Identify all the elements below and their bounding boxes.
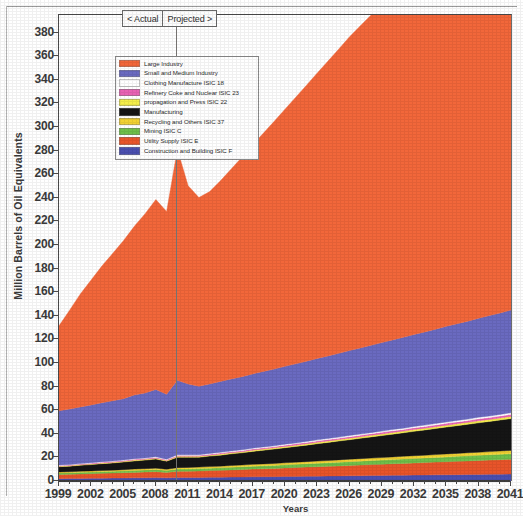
- x-tick-mark-minor: [488, 481, 489, 484]
- x-tick-mark-minor: [198, 481, 199, 484]
- y-tick-mark: [52, 338, 58, 339]
- x-tick-mark: [510, 481, 511, 486]
- x-axis-title-text: Years: [283, 503, 308, 514]
- legend-color-swatch: [119, 89, 140, 97]
- x-axis-title: Years: [0, 503, 523, 514]
- y-tick-mark: [52, 32, 58, 33]
- x-tick-mark: [349, 481, 350, 486]
- legend-color-swatch: [119, 99, 140, 107]
- x-tick-mark: [284, 481, 285, 486]
- x-tick-label: 2026: [335, 487, 362, 501]
- x-tick-mark-minor: [133, 481, 134, 484]
- x-tick-mark-minor: [176, 481, 177, 484]
- y-tick-mark: [52, 409, 58, 410]
- x-tick-label: 2032: [400, 487, 427, 501]
- x-tick-label: 1999: [45, 487, 72, 501]
- legend-item-label: Large Industry: [144, 60, 183, 68]
- legend-color-swatch: [119, 60, 140, 68]
- x-tick-label: 2023: [303, 487, 330, 501]
- x-tick-mark-minor: [359, 481, 360, 484]
- x-tick-mark-minor: [101, 481, 102, 484]
- x-tick-mark-minor: [230, 481, 231, 484]
- x-tick-mark-minor: [112, 481, 113, 484]
- x-tick-label: 2011: [174, 487, 200, 501]
- x-tick-mark-minor: [166, 481, 167, 484]
- x-tick-label: 2038: [464, 487, 491, 501]
- x-tick-mark-minor: [338, 481, 339, 484]
- legend-item-label: Small and Medium Industry: [144, 69, 218, 77]
- legend-item: Small and Medium Industry: [119, 69, 255, 78]
- actual-projected-annotation: < Actual Projected >: [122, 10, 217, 27]
- x-tick-mark: [155, 481, 156, 486]
- scan-edge-top: [6, 6, 517, 7]
- x-axis-tick-labels: 1999200220052008201120142017202020232026…: [0, 487, 523, 503]
- y-tick-mark: [52, 220, 58, 221]
- legend-item-label: Recycling and Others ISIC 37: [144, 118, 224, 126]
- x-tick-mark: [90, 481, 91, 486]
- x-tick-mark: [478, 481, 479, 486]
- legend-color-swatch: [119, 128, 140, 136]
- x-tick-mark-minor: [402, 481, 403, 484]
- scan-edge-left: [6, 6, 7, 496]
- legend-color-swatch: [119, 118, 140, 126]
- x-tick-mark: [252, 481, 253, 486]
- y-tick-mark: [52, 102, 58, 103]
- x-tick-mark: [445, 481, 446, 486]
- legend-item: Manufacturing: [119, 107, 255, 116]
- x-tick-mark: [381, 481, 382, 486]
- legend-color-swatch: [119, 70, 140, 78]
- y-tick-mark: [52, 386, 58, 387]
- legend-item-label: Refinery Coke and Nuclear ISIC 23: [144, 89, 239, 97]
- x-tick-mark-minor: [370, 481, 371, 484]
- legend-item-label: Mining ISIC C: [144, 127, 182, 135]
- y-tick-mark: [52, 456, 58, 457]
- y-tick-mark: [52, 150, 58, 151]
- legend-color-swatch: [119, 79, 140, 87]
- actual-label: < Actual: [123, 11, 162, 26]
- x-tick-label: 2020: [271, 487, 298, 501]
- x-tick-mark-minor: [69, 481, 70, 484]
- legend-item: Clothing Manufacture ISIC 18: [119, 78, 255, 87]
- x-tick-mark-minor: [327, 481, 328, 484]
- x-tick-mark-minor: [295, 481, 296, 484]
- x-tick-mark-minor: [209, 481, 210, 484]
- projected-label: Projected >: [162, 11, 216, 26]
- x-tick-mark-minor: [306, 481, 307, 484]
- y-tick-mark: [52, 173, 58, 174]
- legend-item: Mining ISIC C: [119, 127, 255, 136]
- x-tick-mark: [413, 481, 414, 486]
- legend-item-label: Construction and Building ISIC F: [144, 147, 232, 155]
- legend-item-label: propagation and Press ISIC 22: [144, 98, 227, 106]
- legend-item: propagation and Press ISIC 22: [119, 98, 255, 107]
- y-axis-tick-labels: 0204060801001201401601802002202402602803…: [18, 14, 54, 480]
- x-tick-mark-minor: [456, 481, 457, 484]
- x-tick-label: 2029: [368, 487, 395, 501]
- x-tick-label: 2041: [497, 487, 523, 501]
- legend-item-label: Utility Supply ISIC E: [144, 137, 198, 145]
- y-tick-mark: [52, 55, 58, 56]
- legend-item: Utility Supply ISIC E: [119, 137, 255, 146]
- y-tick-mark: [52, 480, 58, 481]
- legend-item-label: Clothing Manufacture ISIC 18: [144, 79, 224, 87]
- x-tick-mark-minor: [262, 481, 263, 484]
- y-tick-mark: [52, 268, 58, 269]
- y-tick-mark: [52, 79, 58, 80]
- x-tick-label: 2017: [238, 487, 265, 501]
- legend-color-swatch: [119, 137, 140, 145]
- stacked-area-chart-figure: Million Barrels of Oil Equivalents 02040…: [0, 0, 523, 516]
- x-tick-label: 2035: [432, 487, 459, 501]
- y-tick-mark: [52, 362, 58, 363]
- x-tick-mark-minor: [467, 481, 468, 484]
- x-tick-mark-minor: [392, 481, 393, 484]
- x-tick-mark-minor: [144, 481, 145, 484]
- legend-item: Large Industry: [119, 59, 255, 68]
- x-tick-mark-minor: [273, 481, 274, 484]
- x-tick-mark: [316, 481, 317, 486]
- y-tick-mark: [52, 315, 58, 316]
- x-tick-label: 2002: [77, 487, 104, 501]
- legend-item: Refinery Coke and Nuclear ISIC 23: [119, 88, 255, 97]
- y-tick-mark: [52, 126, 58, 127]
- legend-item-label: Manufacturing: [144, 108, 183, 116]
- x-tick-mark-minor: [435, 481, 436, 484]
- y-tick-mark: [52, 291, 58, 292]
